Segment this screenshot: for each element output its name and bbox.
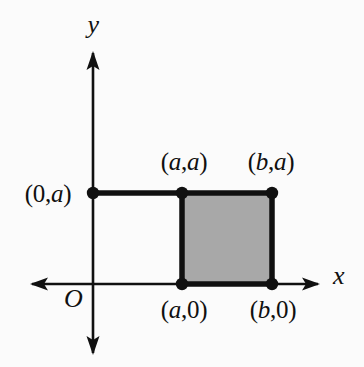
label-x-value: 0 <box>33 180 45 207</box>
dot-point-a-a <box>176 187 188 199</box>
dot-point-a-0 <box>176 278 188 290</box>
label-close-paren: ) <box>288 296 296 323</box>
dot-point-b-a <box>266 187 278 199</box>
label-close-paren: ) <box>199 296 207 323</box>
origin-label: O <box>64 286 82 312</box>
label-point-a-0: (a,0) <box>161 297 207 322</box>
label-point-b-a: (b,a) <box>248 149 294 174</box>
shaded-rectangle <box>182 193 272 284</box>
label-x-value: a <box>169 148 181 175</box>
y-axis <box>87 51 100 355</box>
label-x-value: a <box>169 296 181 323</box>
label-y-value: a <box>51 180 63 207</box>
y-axis-label: y <box>87 12 98 38</box>
label-y-value: a <box>187 148 199 175</box>
label-close-paren: ) <box>199 148 207 175</box>
label-close-paren: ) <box>63 180 71 207</box>
label-open-paren: ( <box>248 148 256 175</box>
label-point-0-a: (0,a) <box>25 181 71 206</box>
label-x-value: b <box>258 296 270 323</box>
label-open-paren: ( <box>250 296 258 323</box>
label-point-a-a: (a,a) <box>161 149 207 174</box>
label-x-value: b <box>256 148 268 175</box>
label-close-paren: ) <box>286 148 294 175</box>
label-open-paren: ( <box>161 148 169 175</box>
dot-point-0-a <box>87 187 99 199</box>
label-point-b-0: (b,0) <box>250 297 296 322</box>
dot-point-b-0 <box>266 278 278 290</box>
label-open-paren: ( <box>25 180 33 207</box>
label-y-value: a <box>274 148 286 175</box>
label-open-paren: ( <box>161 296 169 323</box>
x-axis-label: x <box>333 263 344 289</box>
label-y-value: 0 <box>187 296 199 323</box>
label-y-value: 0 <box>276 296 288 323</box>
